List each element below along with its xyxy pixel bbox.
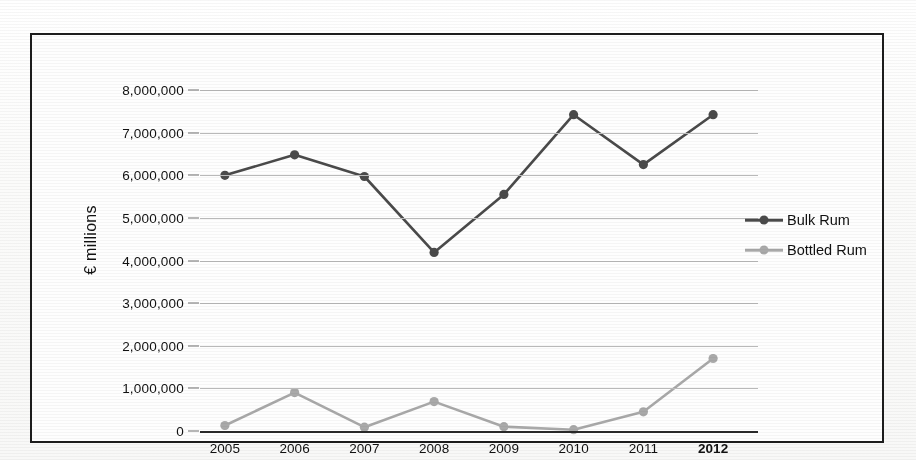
data-point-marker (360, 172, 369, 181)
y-axis-tick-label: 5,000,000 (74, 210, 184, 225)
data-point-marker (639, 160, 648, 169)
y-axis-tick-mark (188, 132, 199, 133)
y-axis-tick-mark (188, 217, 199, 218)
gridline (200, 261, 758, 262)
series-line (225, 115, 713, 253)
x-axis-tick-label: 2009 (489, 441, 519, 456)
x-axis-tick-label: 2011 (629, 441, 658, 456)
data-point-marker (499, 422, 508, 431)
gridline (200, 388, 758, 389)
x-axis-tick-label: 2005 (210, 441, 240, 456)
y-axis-tick-label: 3,000,000 (74, 296, 184, 311)
y-axis-tick-mark (188, 345, 199, 346)
legend-dot (760, 246, 769, 255)
y-axis-tick-mark (188, 431, 199, 432)
data-point-marker (220, 421, 229, 430)
legend-item[interactable]: Bulk Rum (745, 205, 875, 235)
plot-area: 8,000,0007,000,0006,000,0005,000,0004,00… (200, 90, 758, 431)
legend-marker-icon (745, 214, 783, 226)
gridline (200, 133, 758, 134)
legend: Bulk RumBottled Rum (745, 205, 875, 265)
x-axis-tick-label: 2008 (419, 441, 449, 456)
legend-marker-icon (745, 244, 783, 256)
x-axis-tick-label: 2012 (698, 441, 728, 456)
y-axis-tick-mark (188, 175, 199, 176)
gridline (200, 218, 758, 219)
y-axis-tick-label: 2,000,000 (74, 338, 184, 353)
x-axis-tick-label: 2010 (559, 441, 589, 456)
legend-dot (760, 216, 769, 225)
data-point-marker (709, 110, 718, 119)
data-point-marker (709, 354, 718, 363)
legend-item-label: Bottled Rum (787, 242, 867, 258)
x-axis-tick-label: 2007 (349, 441, 379, 456)
y-axis-tick-label: 6,000,000 (74, 168, 184, 183)
gridline (200, 346, 758, 347)
data-point-marker (569, 425, 578, 434)
legend-item-label: Bulk Rum (787, 212, 850, 228)
y-axis-tick-label: 7,000,000 (74, 125, 184, 140)
y-axis-tick-mark (188, 260, 199, 261)
gridline (200, 90, 758, 91)
data-point-marker (290, 150, 299, 159)
y-axis-tick-mark (188, 303, 199, 304)
y-axis-tick-label: 1,000,000 (74, 381, 184, 396)
y-axis-tick-label: 4,000,000 (74, 253, 184, 268)
gridline (200, 303, 758, 304)
y-axis-tick-label: 0 (74, 424, 184, 439)
y-axis-tick-mark (188, 90, 199, 91)
series-bottled-rum (220, 354, 717, 434)
gridline (200, 175, 758, 176)
y-axis-tick-label: 8,000,000 (74, 83, 184, 98)
legend-item[interactable]: Bottled Rum (745, 235, 875, 265)
data-point-marker (430, 248, 439, 257)
data-point-marker (430, 397, 439, 406)
x-axis-line (200, 431, 758, 433)
data-point-marker (569, 110, 578, 119)
x-axis-tick-label: 2006 (280, 441, 310, 456)
y-axis-tick-mark (188, 388, 199, 389)
data-point-marker (639, 407, 648, 416)
data-point-marker (290, 388, 299, 397)
data-point-marker (499, 190, 508, 199)
